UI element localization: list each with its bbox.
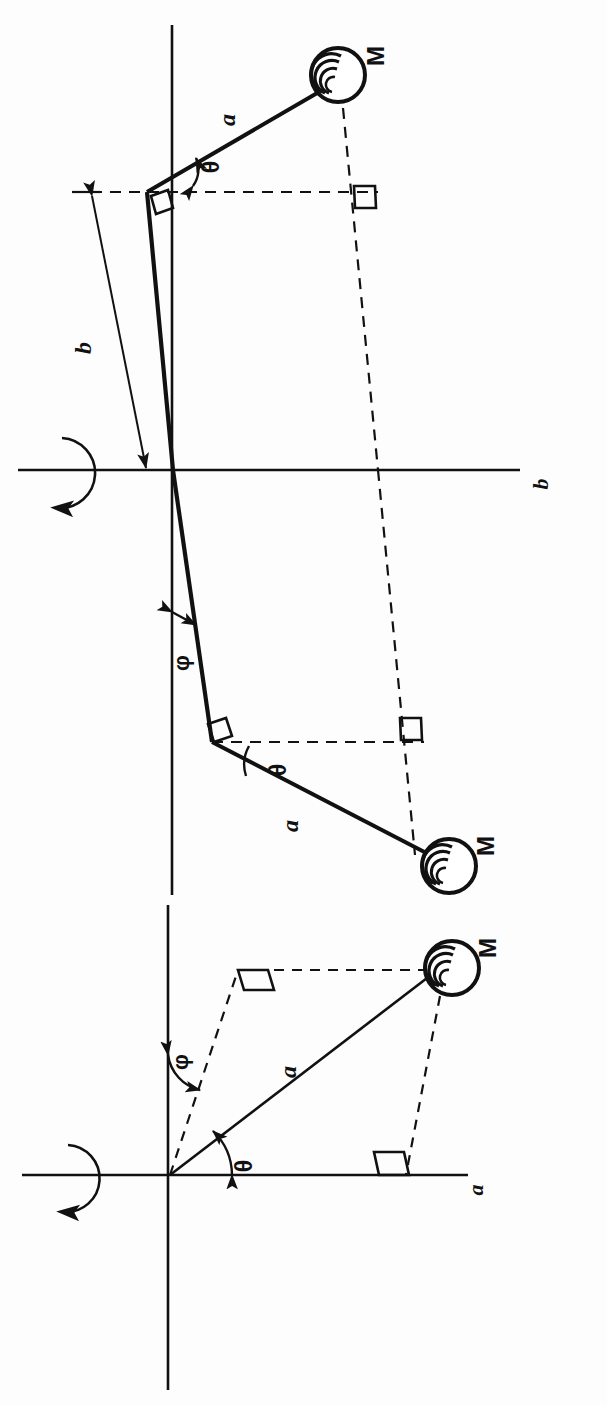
right-angle-marker-projection-upper	[354, 186, 376, 208]
label-theta-lower: θ	[265, 764, 291, 776]
label-a-arm-upper: a	[214, 114, 240, 126]
label-mass-upper: M	[362, 46, 389, 66]
phi-reference-line-bottom	[170, 970, 238, 1175]
label-theta-upper: θ	[198, 161, 224, 173]
label-a-arm-bottom: a	[275, 1066, 301, 1078]
angle-arc-theta-bottom	[213, 1131, 232, 1175]
projection-line-long-upper	[378, 470, 415, 855]
mass-lower	[422, 839, 476, 893]
rotation-arrow-top	[58, 438, 95, 508]
right-angle-marker-axis-bottom-panel	[374, 1152, 409, 1175]
projection-line-upper	[343, 108, 378, 470]
label-mass-lower: M	[472, 836, 499, 856]
shaft-segment-upper	[147, 192, 173, 470]
label-phi-top-panel: φ	[169, 655, 194, 671]
right-angle-marker-top-bottom-panel	[238, 970, 274, 990]
mass-bottom	[425, 941, 479, 995]
dimension-line-b	[92, 196, 146, 468]
mass-upper	[311, 48, 365, 102]
arm-upper	[147, 85, 331, 192]
label-phi-bottom: φ	[168, 1054, 193, 1070]
label-theta-bottom: θ	[231, 1160, 257, 1172]
label-mass-bottom: M	[474, 938, 501, 958]
diagram-canvas: b b a	[0, 0, 607, 1405]
rotation-arrow-bottom	[64, 1145, 100, 1212]
label-b-offset: b	[70, 342, 96, 354]
figure-root: b b a	[0, 0, 607, 1405]
panel-top: b b a	[18, 25, 553, 895]
right-angle-marker-elbow-upper	[151, 190, 173, 214]
panel-bottom: a φ θ a	[22, 905, 501, 1390]
axis-label-top: b	[528, 479, 553, 490]
label-a-arm-lower: a	[277, 820, 303, 832]
shaft-segment-lower	[173, 470, 212, 742]
axis-label-bottom: a	[463, 1185, 488, 1196]
projection-line-bottom	[406, 996, 440, 1175]
